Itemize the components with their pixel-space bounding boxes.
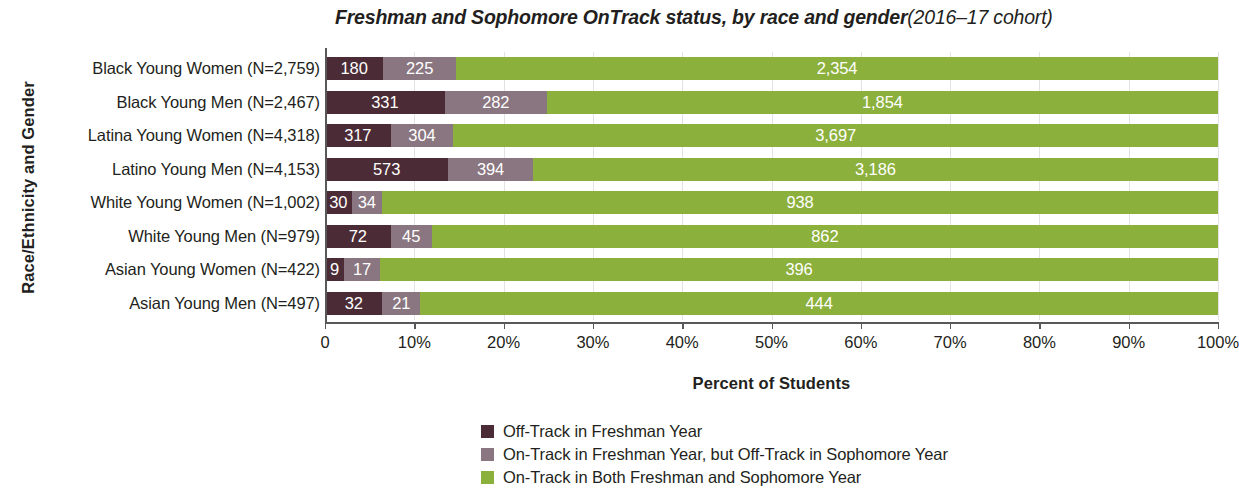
bar-segment[interactable]: 394 xyxy=(448,158,533,181)
bar-segment[interactable]: 317 xyxy=(325,124,391,147)
x-axis-tick-mark xyxy=(1218,322,1219,329)
x-axis-tick-label: 50% xyxy=(755,333,788,352)
x-axis-tick-mark xyxy=(504,322,505,329)
legend-swatch-icon xyxy=(481,448,494,461)
x-axis-tick-mark xyxy=(1129,322,1130,329)
bar-segment[interactable]: 32 xyxy=(325,292,382,315)
x-axis-tick-mark xyxy=(325,322,326,329)
bar-segment[interactable]: 331 xyxy=(325,91,445,114)
bar-segment[interactable]: 938 xyxy=(382,191,1218,214)
bar-row: 917396 xyxy=(325,258,1218,281)
x-axis-tick-label: 80% xyxy=(1023,333,1056,352)
bar-row: 5733943,186 xyxy=(325,158,1218,181)
bar-segment-value-label: 225 xyxy=(406,60,433,77)
x-axis-tick-label: 100% xyxy=(1197,333,1239,352)
x-axis-tick-mark xyxy=(593,322,594,329)
bar-segment-value-label: 32 xyxy=(345,295,363,312)
x-axis-tick-label: 60% xyxy=(844,333,877,352)
x-axis-tick-mark xyxy=(682,322,683,329)
y-axis-tick-label: Latino Young Men (N=4,153) xyxy=(40,160,320,178)
bar-segment-value-label: 3,186 xyxy=(855,161,896,178)
bar-segment-value-label: 180 xyxy=(341,60,368,77)
bar-segment-value-label: 304 xyxy=(408,127,435,144)
bar-segment-value-label: 21 xyxy=(392,295,410,312)
bar-segment-value-label: 444 xyxy=(805,295,832,312)
bar-segment-value-label: 2,354 xyxy=(817,60,858,77)
bar-segment-value-label: 573 xyxy=(373,161,400,178)
bar-segment-value-label: 3,697 xyxy=(815,127,856,144)
x-axis-tick-mark xyxy=(414,322,415,329)
bar-segment-value-label: 9 xyxy=(330,261,339,278)
bar-segment-value-label: 282 xyxy=(482,94,509,111)
x-axis-tick-label: 70% xyxy=(934,333,967,352)
bar-segment-value-label: 1,854 xyxy=(862,94,903,111)
y-axis-tick-label: White Young Men (N=979) xyxy=(40,227,320,245)
bar-row: 7245862 xyxy=(325,225,1218,248)
bar-segment-value-label: 394 xyxy=(477,161,504,178)
bar-segment[interactable]: 180 xyxy=(325,57,383,80)
bar-segment[interactable]: 2,354 xyxy=(456,57,1218,80)
bar-segment[interactable]: 304 xyxy=(391,124,454,147)
bar-segment[interactable]: 30 xyxy=(325,191,352,214)
legend-swatch-icon xyxy=(481,425,494,438)
legend-label: On-Track in Freshman Year, but Off-Track… xyxy=(503,445,948,464)
bar-segment[interactable]: 3,697 xyxy=(453,124,1218,147)
bar-segment-value-label: 72 xyxy=(349,228,367,245)
bar-segment[interactable]: 9 xyxy=(325,258,344,281)
legend-item[interactable]: Off-Track in Freshman Year xyxy=(481,420,948,443)
bar-segment-value-label: 396 xyxy=(785,261,812,278)
x-axis-tick-mark xyxy=(861,322,862,329)
x-axis-tick-label: 30% xyxy=(576,333,609,352)
bar-segment[interactable]: 573 xyxy=(325,158,448,181)
x-axis-title: Percent of Students xyxy=(325,374,1218,393)
x-axis-tick-label: 90% xyxy=(1112,333,1145,352)
bar-segment-value-label: 938 xyxy=(786,194,813,211)
bar-row: 3312821,854 xyxy=(325,91,1218,114)
legend-item[interactable]: On-Track in Freshman Year, but Off-Track… xyxy=(481,443,948,466)
bar-segment-value-label: 862 xyxy=(811,228,838,245)
y-axis-tick-label: Asian Young Men (N=497) xyxy=(40,294,320,312)
y-axis-line xyxy=(325,48,327,324)
bar-segment[interactable]: 34 xyxy=(352,191,382,214)
x-axis-tick-label: 10% xyxy=(398,333,431,352)
gridline xyxy=(1218,52,1219,320)
y-axis-tick-label: Asian Young Women (N=422) xyxy=(40,260,320,278)
x-axis-tick-label: 0 xyxy=(320,333,329,352)
bar-segment[interactable]: 444 xyxy=(420,292,1218,315)
bar-segment[interactable]: 396 xyxy=(380,258,1218,281)
bar-segment[interactable]: 45 xyxy=(391,225,432,248)
legend-swatch-icon xyxy=(481,471,494,484)
legend-item[interactable]: On-Track in Both Freshman and Sophomore … xyxy=(481,466,948,489)
bar-segment[interactable]: 21 xyxy=(382,292,420,315)
x-axis-tick-label: 20% xyxy=(487,333,520,352)
bar-segment[interactable]: 3,186 xyxy=(533,158,1218,181)
plot-area: 1802252,3543312821,8543173043,6975733943… xyxy=(325,52,1218,320)
bar-segment[interactable]: 1,854 xyxy=(547,91,1218,114)
x-axis-tick-mark xyxy=(950,322,951,329)
y-axis-tick-labels: Black Young Women (N=2,759)Black Young M… xyxy=(40,52,320,320)
bar-row: 3173043,697 xyxy=(325,124,1218,147)
legend-label: Off-Track in Freshman Year xyxy=(503,422,702,441)
x-axis-tick-mark xyxy=(772,322,773,329)
bar-segment[interactable]: 282 xyxy=(445,91,547,114)
legend-label: On-Track in Both Freshman and Sophomore … xyxy=(503,468,861,487)
y-axis-tick-label: Black Young Women (N=2,759) xyxy=(40,59,320,77)
bar-segment-value-label: 30 xyxy=(329,194,347,211)
bar-row: 3034938 xyxy=(325,191,1218,214)
bar-segment-value-label: 45 xyxy=(402,228,420,245)
bar-segment[interactable]: 72 xyxy=(325,225,391,248)
bar-segment[interactable]: 225 xyxy=(383,57,456,80)
x-axis-tick-mark xyxy=(1039,322,1040,329)
x-axis-tick-label: 40% xyxy=(666,333,699,352)
y-axis-tick-label: Latina Young Women (N=4,318) xyxy=(40,126,320,144)
bar-row: 1802252,354 xyxy=(325,57,1218,80)
chart-legend: Off-Track in Freshman YearOn-Track in Fr… xyxy=(481,420,948,489)
bar-segment[interactable]: 862 xyxy=(432,225,1218,248)
y-axis-tick-label: Black Young Men (N=2,467) xyxy=(40,93,320,111)
bar-row: 3221444 xyxy=(325,292,1218,315)
bar-segment-value-label: 34 xyxy=(358,194,376,211)
bar-segment-value-label: 317 xyxy=(344,127,371,144)
bar-segment[interactable]: 17 xyxy=(344,258,380,281)
y-axis-tick-label: White Young Women (N=1,002) xyxy=(40,193,320,211)
